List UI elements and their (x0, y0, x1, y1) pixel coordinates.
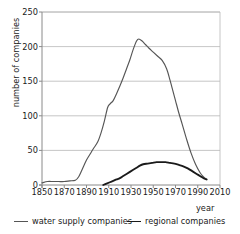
legend-label-regional: regional companies (145, 216, 225, 226)
x-tick-label-1850: 1850 (32, 187, 53, 197)
x-tick-label-1970: 1970 (165, 187, 186, 197)
x-tick-label-1950: 1950 (143, 187, 164, 197)
y-tick-label-150: 150 (22, 76, 38, 86)
legend-item-regional-companies: regional companies (127, 216, 225, 226)
legend-item-water-supply-companies: water supply companies (14, 216, 132, 226)
x-tick-label-1930: 1930 (121, 187, 142, 197)
legend-swatch-regional-icon (127, 221, 141, 222)
y-axis-tick-labels: 050100150200250 (12, 0, 38, 234)
y-tick-label-250: 250 (22, 7, 38, 17)
legend-swatch-water-supply-icon (14, 221, 28, 222)
series-line-regional-companies (103, 162, 206, 185)
x-tick-label-1910: 1910 (98, 187, 119, 197)
x-axis-label: year (196, 203, 214, 213)
chart-figure: number of companies year 050100150200250… (0, 0, 240, 234)
x-tick-label-1870: 1870 (54, 187, 75, 197)
chart-legend: water supply companies regional companie… (0, 216, 240, 232)
y-tick-label-100: 100 (22, 111, 38, 121)
y-tick-label-200: 200 (22, 42, 38, 52)
x-tick-label-1890: 1890 (76, 187, 97, 197)
x-tick-label-2010: 2010 (210, 187, 231, 197)
series-line-water-supply-companies (42, 39, 207, 183)
y-tick-label-50: 50 (28, 145, 38, 155)
legend-label-water-supply: water supply companies (32, 216, 132, 226)
x-tick-label-1990: 1990 (187, 187, 208, 197)
